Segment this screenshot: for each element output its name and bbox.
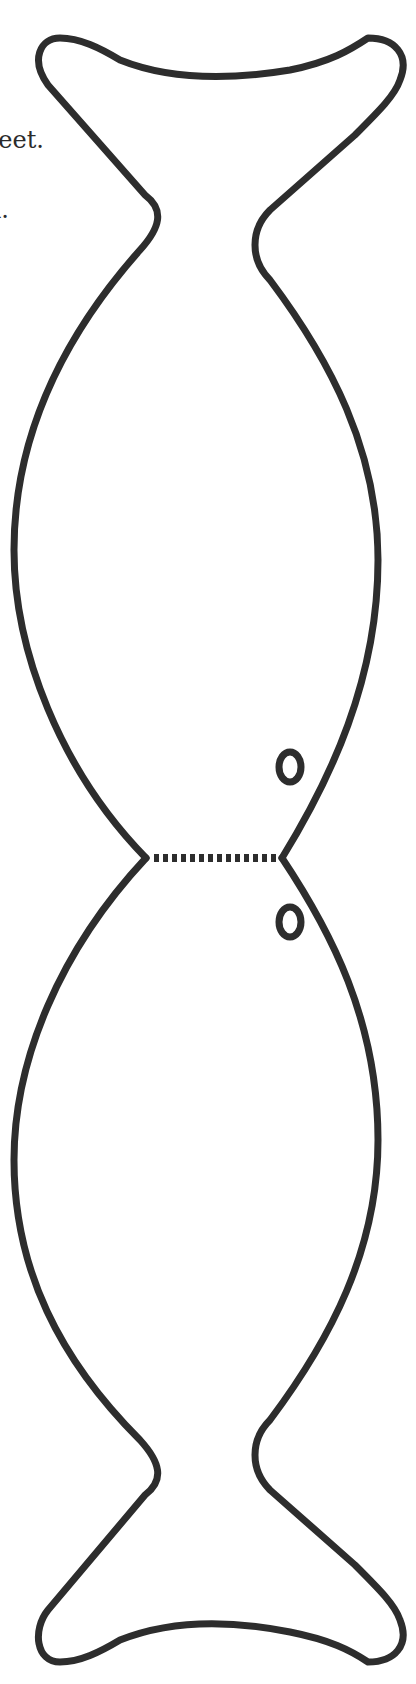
printable-page: eet. l. <box>0 0 416 1684</box>
eye-lower-icon <box>279 907 301 937</box>
fish-outline-upper <box>14 38 403 858</box>
fish-template-drawing <box>0 0 416 1684</box>
fish-outline-lower <box>14 858 403 1662</box>
eye-upper-icon <box>279 752 301 782</box>
